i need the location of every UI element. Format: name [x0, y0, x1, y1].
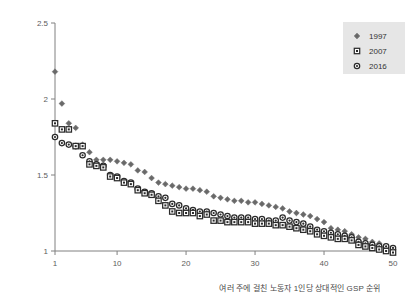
- point-2007-34-core: [282, 224, 284, 226]
- point-2007-45-core: [358, 244, 360, 246]
- point-2016-20-core: [185, 207, 187, 209]
- point-2016-22-core: [199, 210, 201, 212]
- legend-label-2007: 2007: [369, 47, 387, 56]
- point-2016-37-core: [302, 223, 304, 225]
- point-2007-29-core: [247, 221, 249, 223]
- point-2007-7-core: [95, 165, 97, 167]
- point-2007-43-core: [344, 238, 346, 240]
- point-2016-29-core: [247, 216, 249, 218]
- y-tick-label: 2.5: [37, 19, 49, 28]
- point-2007-30-core: [254, 223, 256, 225]
- point-2007-46-core: [364, 245, 366, 247]
- point-2016-17-core: [164, 197, 166, 199]
- y-tick-label: 1: [44, 247, 49, 256]
- point-2007-35-core: [289, 226, 291, 228]
- point-2007-1-core: [54, 122, 56, 124]
- point-2007-25-core: [220, 220, 222, 222]
- point-2016-38-core: [309, 226, 311, 228]
- legend-marker-2016-core: [356, 65, 358, 67]
- point-2007-6-core: [88, 163, 90, 165]
- point-2007-27-core: [233, 221, 235, 223]
- x-tick-label: 20: [182, 259, 191, 268]
- point-2007-23-core: [206, 214, 208, 216]
- series-2016: [52, 134, 395, 250]
- point-2007-47-core: [371, 247, 373, 249]
- series-1997: [52, 69, 396, 253]
- point-2007-50-core: [392, 252, 394, 254]
- x-axis-title: 여러 주에 걸친 노동자 1인당 상대적인 GSP 순위: [190, 283, 410, 295]
- point-2016-31-core: [261, 218, 263, 220]
- data-points-group: [52, 69, 396, 255]
- point-2007-48-core: [378, 248, 380, 250]
- point-2016-36-core: [295, 221, 297, 223]
- point-2016-26-core: [226, 215, 228, 217]
- point-2007-14-core: [144, 192, 146, 194]
- point-2016-16-core: [157, 195, 159, 197]
- point-2007-5-core: [82, 145, 84, 147]
- point-2007-10-core: [116, 177, 118, 179]
- point-2007-21-core: [192, 212, 194, 214]
- point-2007-36-core: [295, 227, 297, 229]
- point-2007-24-core: [213, 220, 215, 222]
- point-2016-1-core: [54, 136, 56, 138]
- point-2016-28-core: [240, 216, 242, 218]
- point-2007-31-core: [261, 223, 263, 225]
- point-2007-33-core: [275, 224, 277, 226]
- point-2007-38-core: [309, 230, 311, 232]
- legend-marker-2007-core: [356, 50, 358, 52]
- y-tick-label: 2: [44, 95, 49, 104]
- point-2016-49-core: [385, 245, 387, 247]
- point-2007-17-core: [164, 204, 166, 206]
- point-2016-39-core: [316, 229, 318, 231]
- point-2007-49-core: [385, 250, 387, 252]
- point-2016-5-core: [81, 154, 83, 156]
- point-2007-37-core: [302, 229, 304, 231]
- point-2016-2-core: [61, 142, 63, 144]
- point-2007-19-core: [178, 212, 180, 214]
- point-2007-41-core: [330, 236, 332, 238]
- point-2016-24-core: [213, 212, 215, 214]
- point-2007-22-core: [199, 215, 201, 217]
- chart-legend: 199720072016: [343, 22, 405, 74]
- point-2007-40-core: [323, 235, 325, 237]
- point-2016-25-core: [219, 213, 221, 215]
- point-2016-19-core: [178, 204, 180, 206]
- point-2007-20-core: [185, 212, 187, 214]
- point-2007-12-core: [130, 183, 132, 185]
- legend-label-1997: 1997: [369, 32, 387, 41]
- point-2007-28-core: [240, 221, 242, 223]
- x-tick-label: 40: [320, 259, 329, 268]
- x-tick-label: 1: [53, 259, 58, 268]
- point-2016-42-core: [337, 233, 339, 235]
- point-2016-50-core: [392, 247, 394, 249]
- x-tick-label: 50: [389, 259, 398, 268]
- x-tick-label: 30: [251, 259, 260, 268]
- point-2007-15-core: [151, 194, 153, 196]
- y-tick-label: 1.5: [37, 171, 49, 180]
- point-2016-27-core: [233, 216, 235, 218]
- scatter-plot-svg: 11.522.511020304050 199720072016: [0, 0, 413, 307]
- legend-label-2016: 2016: [369, 62, 387, 71]
- point-2007-3-core: [68, 128, 70, 130]
- point-2007-39-core: [316, 233, 318, 235]
- point-2007-4-core: [75, 145, 77, 147]
- point-2016-30-core: [254, 218, 256, 220]
- point-2016-18-core: [171, 203, 173, 205]
- point-2007-2-core: [61, 128, 63, 130]
- point-2016-33-core: [275, 220, 277, 222]
- point-2007-42-core: [337, 238, 339, 240]
- point-2016-35-core: [288, 220, 290, 222]
- point-2016-3-core: [68, 144, 70, 146]
- point-2007-11-core: [123, 182, 125, 184]
- point-2007-9-core: [109, 176, 111, 178]
- point-2007-18-core: [171, 210, 173, 212]
- point-2007-8-core: [102, 166, 104, 168]
- point-2016-40-core: [323, 230, 325, 232]
- x-tick-label: 10: [113, 259, 122, 268]
- point-2007-44-core: [351, 239, 353, 241]
- point-2016-34-core: [282, 216, 284, 218]
- point-2007-26-core: [226, 221, 228, 223]
- point-2007-32-core: [268, 223, 270, 225]
- point-2007-16-core: [157, 200, 159, 202]
- point-2007-13-core: [137, 189, 139, 191]
